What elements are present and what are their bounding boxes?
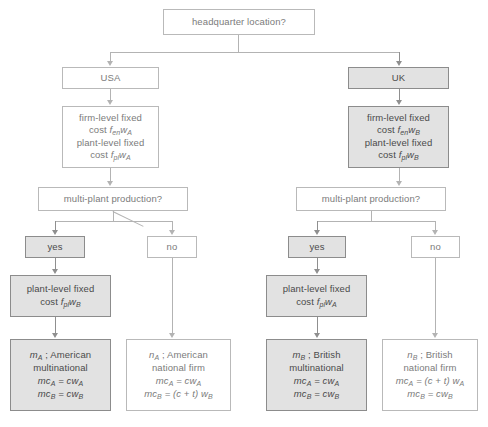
node-outcome-american-multinational: mA ; American multinational mcA = cwA mc… [10,339,111,411]
usa-cost-line-2: cost fenwA [89,124,132,137]
usa-cost-line-1: firm-level fixed [79,112,142,124]
arrow-usa-costs-to-question [107,181,113,186]
uk-yes-label: yes [309,241,324,253]
outcome-an-symbol: nA ; American [149,349,208,362]
arrow-uk-to-costs [396,100,402,105]
arrow-uk-plant-to-outcome [314,333,320,338]
usa-plant-line-2: cost fplwB [40,296,81,309]
node-usa-no: no [147,236,197,258]
arrow-usa-plant-to-outcome [52,333,58,338]
arrow-usa-to-yes [52,230,58,235]
arrow-usa-to-no [169,230,175,235]
outcome-bn-mc-b: mcB = cwB [407,388,452,401]
uk-cost-line-1: firm-level fixed [367,112,430,124]
node-uk-no: no [411,236,460,258]
connector-usa-no-to-outcome [172,258,173,334]
outcome-bm-mc-b: mcB = cwB [294,388,339,401]
usa-plant-line-1: plant-level fixed [27,283,95,295]
connector-usa-plant-to-outcome [55,317,56,334]
usa-cost-line-4: cost fplwA [90,149,131,162]
outcome-bm-mc-a: mcA = cwA [294,375,339,388]
stray-line-artifact [113,211,144,227]
connector-usa-question-stem [113,211,114,221]
uk-no-label: no [430,241,441,253]
node-uk-multiplant-question: multi-plant production? [296,187,446,211]
arrow-usa-yes-to-plant [52,269,58,274]
node-outcome-american-national: nA ; American national firm mcA = cwA mc… [126,339,231,411]
usa-yes-label: yes [47,241,62,253]
node-country-uk: UK [348,67,449,89]
outcome-am-symbol: mA ; American [30,349,91,362]
uk-label: UK [392,72,405,84]
connector-uk-question-stem [371,211,372,221]
arrow-to-uk [396,61,402,66]
node-outcome-british-national: nB ; British national firm mcA = (c + t)… [382,339,478,411]
outcome-bm-name2: multinational [289,362,344,374]
node-country-usa: USA [62,67,159,89]
node-uk-fixed-costs: firm-level fixed cost fenwB plant-level … [348,106,449,168]
outcome-bn-mc-a: mcA = (c + t) wA [396,375,465,388]
arrow-to-usa [107,61,113,66]
node-usa-yes: yes [25,236,85,258]
connector-root-split [110,52,399,53]
usa-question-label: multi-plant production? [64,193,162,205]
node-uk-yes: yes [288,236,346,258]
uk-question-label: multi-plant production? [322,193,420,205]
arrow-uk-to-no [432,230,438,235]
usa-label: USA [101,72,121,84]
node-uk-extra-plant-cost: plant-level fixed cost fplwA [266,275,367,317]
node-outcome-british-multinational: mB ; British multinational mcA = cwA mcB… [266,339,367,411]
connector-uk-yesno-bar [317,221,435,222]
connector-root-stem [238,35,239,52]
connector-uk-costs-to-question [399,168,400,182]
node-usa-fixed-costs: firm-level fixed cost fenwA plant-level … [62,106,159,168]
outcome-bn-symbol: nB ; British [407,349,453,362]
usa-cost-line-3: plant-level fixed [77,137,145,149]
uk-cost-line-3: plant-level fixed [365,137,433,149]
uk-cost-line-2: cost fenwB [377,124,420,137]
outcome-an-mc-a: mcA = cwA [156,375,201,388]
arrow-uk-to-yes [314,230,320,235]
outcome-am-mc-a: mcA = cwA [38,375,83,388]
outcome-bn-name2: national firm [403,362,456,374]
outcome-bm-symbol: mB ; British [292,349,340,362]
outcome-am-name2: multinational [33,362,88,374]
outcome-an-name2: national firm [152,362,205,374]
arrow-uk-costs-to-question [396,181,402,186]
arrow-usa-no-to-outcome [169,333,175,338]
root-label: headquarter location? [192,16,286,28]
uk-plant-line-1: plant-level fixed [283,283,351,295]
uk-cost-line-4: cost fplwB [378,149,419,162]
outcome-an-mc-b: mcB = (c + t) wB [144,388,213,401]
node-usa-extra-plant-cost: plant-level fixed cost fplwB [10,275,111,317]
connector-uk-no-to-outcome [435,258,436,334]
uk-plant-line-2: cost fplwA [296,296,337,309]
node-headquarter-location: headquarter location? [163,9,315,35]
connector-uk-plant-to-outcome [317,317,318,334]
node-usa-multiplant-question: multi-plant production? [38,187,188,211]
connector-usa-yesno-bar [55,221,172,222]
arrow-uk-yes-to-plant [314,269,320,274]
outcome-am-mc-b: mcB = cwB [38,388,83,401]
arrow-uk-no-to-outcome [432,333,438,338]
decision-tree-diagram: headquarter location? USA firm-level fix… [0,0,488,427]
usa-no-label: no [167,241,178,253]
arrow-usa-to-costs [107,100,113,105]
connector-usa-costs-to-question [110,168,111,182]
